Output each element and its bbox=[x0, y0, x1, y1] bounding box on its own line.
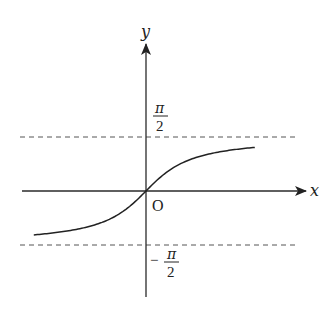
origin-label: O bbox=[152, 197, 164, 214]
upper-asymptote-label: π 2 bbox=[153, 100, 168, 134]
upper-fraction-denominator: 2 bbox=[156, 118, 164, 134]
x-axis-label: x bbox=[310, 181, 319, 200]
lower-fraction-denominator: 2 bbox=[167, 264, 175, 280]
y-axis-label: y bbox=[140, 22, 151, 41]
upper-fraction-numerator: π bbox=[154, 100, 165, 116]
lower-asymptote-label: − π 2 bbox=[150, 246, 179, 280]
lower-fraction-sign: − bbox=[150, 252, 158, 268]
arctan-diagram: x y O π 2 − π 2 bbox=[0, 0, 335, 316]
lower-fraction-numerator: π bbox=[166, 246, 177, 262]
